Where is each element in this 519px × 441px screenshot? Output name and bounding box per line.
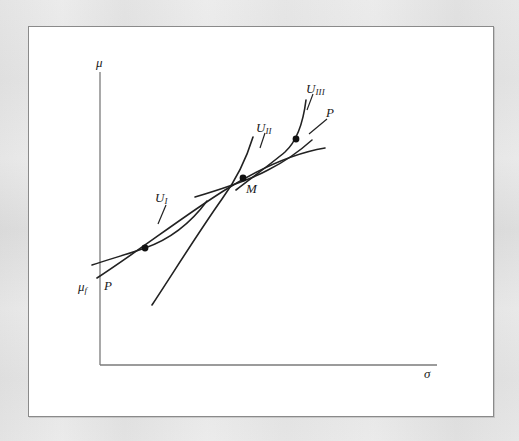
indifference-curve-1	[92, 201, 207, 265]
tangency-point-1	[142, 245, 149, 252]
u3-base: U	[306, 81, 315, 96]
u3-subscript: III	[315, 87, 325, 97]
u2-subscript: II	[265, 126, 271, 136]
x-axis-label: σ	[424, 366, 430, 382]
figure-canvas	[0, 0, 519, 441]
u2-base: U	[256, 120, 265, 135]
indifference-curve-2	[152, 137, 253, 305]
curve-label-u3: UIII	[306, 81, 325, 97]
curve-label-p-lower: P	[104, 278, 112, 294]
y-axis-label: μ	[96, 55, 103, 71]
mu-f-subscript: f	[85, 285, 88, 295]
curve-label-u2: UII	[256, 120, 272, 136]
point-label-m: M	[246, 181, 257, 197]
curve-label-p-upper: P	[326, 105, 334, 121]
indifference-curve-3	[236, 100, 306, 190]
curve-label-u1: UI	[155, 190, 168, 206]
leader-line-p-upper	[309, 119, 327, 134]
risk-free-rate-label: μf	[78, 279, 87, 295]
leader-line-u1	[158, 205, 166, 224]
u1-base: U	[155, 190, 164, 205]
u1-subscript: I	[164, 196, 167, 206]
tangency-point-3	[293, 136, 300, 143]
opportunity-locus-curve	[97, 148, 325, 278]
